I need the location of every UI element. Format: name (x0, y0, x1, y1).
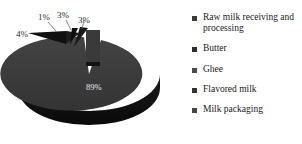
legend-item-butter[interactable]: Butter (192, 43, 302, 54)
legend-swatch-butter (192, 47, 197, 52)
slice-label-flavored: 3% (57, 11, 69, 20)
legend-item-milk-packaging[interactable]: Milk packaging (192, 104, 302, 115)
pie-slice-main-top (0, 37, 142, 111)
slice-label-ghee: 1% (38, 13, 50, 22)
legend-label-flavored-milk: Flavored milk (203, 84, 257, 95)
legend-item-flavored-milk[interactable]: Flavored milk (192, 84, 302, 95)
pie-slice-packaging (86, 30, 100, 66)
legend-label-ghee: Ghee (203, 64, 223, 75)
legend-item-ghee[interactable]: Ghee (192, 64, 302, 75)
pie-svg (0, 0, 180, 144)
slice-label-butter: 4% (16, 30, 28, 39)
legend-swatch-flavored-milk (192, 88, 197, 93)
legend-swatch-raw-milk (192, 16, 197, 21)
legend-swatch-ghee (192, 68, 197, 73)
legend-swatch-milk-packaging (192, 108, 197, 113)
pie-graphic: 4% 1% 3% 3% 89% (0, 0, 180, 144)
slice-label-packaging: 3% (78, 16, 90, 25)
legend-label-raw-milk: Raw milk receiving and processing (203, 12, 302, 34)
pie-chart: 4% 1% 3% 3% 89% Raw milk receiving and p… (0, 0, 302, 144)
legend-item-raw-milk[interactable]: Raw milk receiving and processing (192, 12, 302, 34)
slice-label-main: 89% (86, 83, 102, 92)
legend-label-milk-packaging: Milk packaging (203, 104, 263, 115)
legend-label-butter: Butter (203, 43, 227, 54)
chart-legend: Raw milk receiving and processing Butter… (192, 12, 302, 124)
